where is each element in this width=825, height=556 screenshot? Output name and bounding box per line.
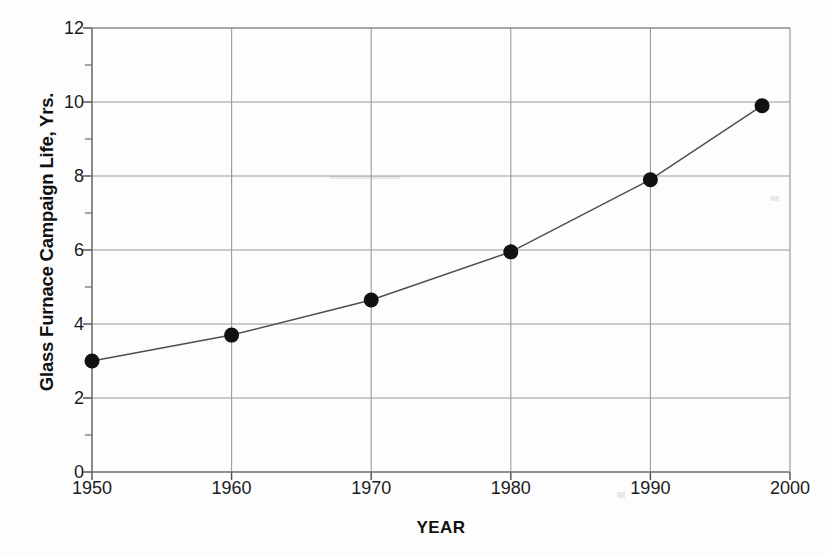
x-axis-title: YEAR (92, 518, 790, 538)
x-tick-label: 1970 (336, 479, 406, 497)
x-tick-label: 2000 (755, 479, 825, 497)
plot-area (0, 0, 825, 556)
axis-major-ticks (83, 28, 790, 480)
data-series-markers (85, 98, 770, 368)
x-tick-label: 1990 (615, 479, 685, 497)
data-series-line (92, 106, 762, 361)
x-tick-label: 1980 (476, 479, 546, 497)
data-point (364, 292, 379, 307)
x-axis-tick-labels: 195019601970198019902000 (0, 479, 825, 507)
data-point (85, 354, 100, 369)
horizontal-gridlines (92, 102, 790, 398)
chart-figure: Glass Furnace Campaign Life, Yrs. 024681… (0, 0, 825, 556)
x-tick-label: 1960 (197, 479, 267, 497)
data-point (755, 98, 770, 113)
data-point (503, 244, 518, 259)
x-tick-label: 1950 (57, 479, 127, 497)
data-point (643, 172, 658, 187)
data-point (224, 328, 239, 343)
